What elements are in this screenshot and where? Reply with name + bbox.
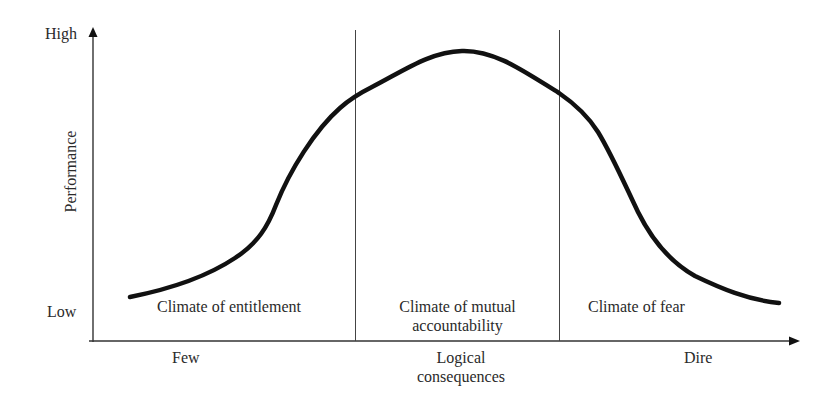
region-label-entitlement: Climate of entitlement xyxy=(157,297,301,316)
y-axis-title: Performance xyxy=(61,122,80,222)
x-axis-arrow-icon xyxy=(789,337,800,346)
x-tick-logical-consequences: Logical consequences xyxy=(386,348,536,386)
performance-curve xyxy=(130,51,779,303)
y-axis-arrow-icon xyxy=(89,27,98,37)
region-label-mutual-accountability: Climate of mutual accountability xyxy=(370,297,545,335)
x-tick-logical-line2: consequences xyxy=(386,367,536,386)
region-label-mutual-line1: Climate of mutual xyxy=(370,297,545,316)
y-tick-low: Low xyxy=(47,302,76,321)
region-label-fear: Climate of fear xyxy=(588,297,685,316)
x-tick-logical-line1: Logical xyxy=(386,348,536,367)
x-tick-few: Few xyxy=(172,348,200,367)
x-tick-dire: Dire xyxy=(684,348,712,367)
y-tick-high: High xyxy=(45,24,77,43)
region-label-mutual-line2: accountability xyxy=(370,316,545,335)
